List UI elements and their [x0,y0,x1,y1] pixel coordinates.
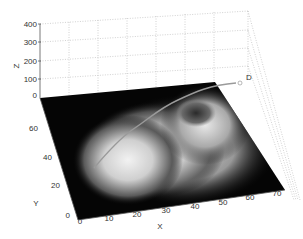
z-tick: 400 [24,20,38,29]
x-tick: 40 [191,202,200,211]
z-tick: 300 [24,38,38,47]
z-tick: 200 [24,57,38,66]
x-tick: 10 [105,214,114,223]
x-tick: 20 [133,210,142,219]
x-tick: 60 [246,193,255,202]
x-tick: 30 [162,206,171,215]
y-tick: 60 [29,124,38,133]
x-axis-label: X [157,222,163,231]
z-axis: 400 300 200 100 0 Z [12,20,41,100]
x-tick: 70 [273,189,282,198]
z-tick: 0 [33,91,38,100]
y-tick: 0 [66,211,71,220]
z-tick: 100 [24,75,38,84]
z-axis-label: Z [12,63,21,68]
y-tick: 20 [51,181,60,190]
y-tick: 40 [43,153,52,162]
surface-plot: 400 300 200 100 0 Z D 60 40 20 0 Y 0 10 [0,0,303,239]
x-tick: 0 [78,217,83,226]
point-label-d: D [246,73,252,82]
x-tick: 50 [219,198,228,207]
y-axis-label: Y [33,199,39,208]
